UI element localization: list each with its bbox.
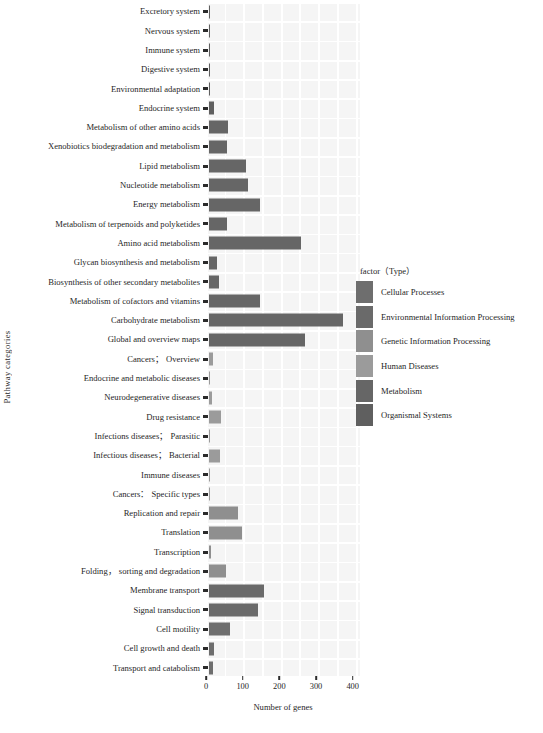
bar-cell	[209, 465, 360, 484]
category-label: Neurodegenerative diseases	[0, 393, 203, 402]
category-label: Metabolism of other amino acids	[0, 123, 203, 132]
bar-row: Amino acid metabolism	[0, 234, 360, 253]
bar-cell	[209, 485, 360, 504]
bar	[209, 372, 210, 385]
bar-cell	[209, 330, 360, 349]
legend-swatch	[356, 281, 373, 303]
y-axis-tick	[203, 435, 208, 438]
bar-cell	[209, 446, 360, 465]
bar-row: Carbohydrate metabolism	[0, 311, 360, 330]
bar-row: Endocrine system	[0, 99, 360, 118]
bar-row: Digestive system	[0, 60, 360, 79]
bar	[209, 314, 343, 327]
legend-label: Environmental Information Processing	[381, 312, 515, 322]
bar-row: Immune system	[0, 41, 360, 60]
x-axis-tick-label: 100	[236, 682, 249, 691]
legend-swatch	[356, 306, 373, 328]
legend-label: Cellular Processes	[381, 287, 444, 297]
category-label: Cell growth and death	[0, 644, 203, 653]
bar	[209, 295, 260, 308]
bar-cell	[209, 137, 360, 156]
category-label: Biosynthesis of other secondary metaboli…	[0, 278, 203, 287]
category-label: Folding， sorting and degradation	[0, 567, 203, 576]
bar-cell	[209, 639, 360, 658]
bar-row: Global and overview maps	[0, 330, 360, 349]
legend-item[interactable]: Organismal Systems	[356, 403, 541, 428]
bar-cell	[209, 60, 360, 79]
category-label: Membrane transport	[0, 586, 203, 595]
y-axis-tick	[203, 126, 208, 129]
bar-row: Nervous system	[0, 21, 360, 40]
bar	[209, 5, 210, 18]
y-axis-tick	[203, 531, 208, 534]
legend-item[interactable]: Genetic Information Processing	[356, 329, 541, 354]
y-axis-tick	[203, 647, 208, 650]
y-axis-tick	[203, 10, 208, 13]
bar	[209, 661, 213, 674]
y-axis-tick	[203, 165, 208, 168]
bar	[209, 507, 238, 520]
legend: factor（Type） Cellular ProcessesEnvironme…	[356, 264, 541, 428]
category-label: Drug resistance	[0, 413, 203, 422]
bar-row: Cell growth and death	[0, 639, 360, 658]
bar-row: Translation	[0, 523, 360, 542]
x-axis-title: Number of genes	[206, 702, 360, 712]
bar-row: Endocrine and metabolic diseases	[0, 369, 360, 388]
bar-cell	[209, 292, 360, 311]
y-axis-tick	[203, 570, 208, 573]
bar-cell	[209, 234, 360, 253]
legend-item[interactable]: Human Diseases	[356, 354, 541, 379]
y-axis-tick	[203, 415, 208, 418]
bar-row: Cancers； Overview	[0, 349, 360, 368]
bar-cell	[209, 658, 360, 677]
bar-row: Cancers： Specific types	[0, 485, 360, 504]
bar	[209, 410, 221, 423]
bar-row: Biosynthesis of other secondary metaboli…	[0, 272, 360, 291]
bar-cell	[209, 369, 360, 388]
bar-row: Membrane transport	[0, 581, 360, 600]
bar	[209, 391, 212, 404]
bar-row: Metabolism of cofactors and vitamins	[0, 292, 360, 311]
bar-cell	[209, 214, 360, 233]
bar-row: Transcription	[0, 542, 360, 561]
legend-item[interactable]: Environmental Information Processing	[356, 305, 541, 330]
bar-row: Immune diseases	[0, 465, 360, 484]
bar	[209, 140, 227, 153]
bar-row: Metabolism of terpenoids and polyketides	[0, 214, 360, 233]
bar-row: Glycan biosynthesis and metabolism	[0, 253, 360, 272]
bar-cell	[209, 542, 360, 561]
x-axis-tick	[279, 676, 281, 680]
category-label: Cancers： Specific types	[0, 490, 203, 499]
category-label: Energy metabolism	[0, 200, 203, 209]
category-label: Global and overview maps	[0, 335, 203, 344]
bar	[209, 353, 213, 366]
bar-row: Infections diseases； Parasitic	[0, 427, 360, 446]
x-axis-tick-label: 400	[346, 682, 359, 691]
category-label: Xenobiotics biodegradation and metabolis…	[0, 142, 203, 151]
category-label: Nervous system	[0, 27, 203, 36]
category-label: Excretory system	[0, 7, 203, 16]
legend-item[interactable]: Metabolism	[356, 378, 541, 403]
bar-cell	[209, 407, 360, 426]
category-label: Transport and catabolism	[0, 664, 203, 673]
category-label: Digestive system	[0, 65, 203, 74]
category-label: Nucleotide metabolism	[0, 181, 203, 190]
y-axis-tick	[203, 608, 208, 611]
bar-row: Folding， sorting and degradation	[0, 562, 360, 581]
bar	[209, 179, 248, 192]
bar-cell	[209, 156, 360, 175]
bar	[209, 237, 301, 250]
y-axis-tick	[203, 551, 208, 554]
bar	[209, 565, 226, 578]
legend-item[interactable]: Cellular Processes	[356, 280, 541, 305]
x-axis-tick	[205, 676, 207, 680]
bar-cell	[209, 349, 360, 368]
category-label: Glycan biosynthesis and metabolism	[0, 258, 203, 267]
bar	[209, 24, 210, 37]
legend-items: Cellular ProcessesEnvironmental Informat…	[356, 280, 541, 428]
category-label: Replication and repair	[0, 509, 203, 518]
bar-cell	[209, 581, 360, 600]
bar-cell	[209, 176, 360, 195]
bar-cell	[209, 311, 360, 330]
category-label: Infections diseases； Parasitic	[0, 432, 203, 441]
